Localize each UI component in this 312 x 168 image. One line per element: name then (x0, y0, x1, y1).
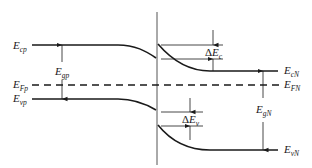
valence-band-p (32, 99, 156, 110)
label-e-gp: Egp (54, 65, 69, 80)
label-e-cp: Ecp (12, 39, 27, 54)
label-delta-ec: ΔEc (205, 46, 223, 61)
valence-band-n (158, 125, 278, 150)
label-e-vp: Evp (12, 92, 27, 107)
label-e-fn: EFN (283, 78, 301, 93)
label-delta-ev: ΔEv (182, 113, 200, 128)
band-diagram: Ecp Egp EFp Evp ΔEc ΔEv EcN EFN EgN EvN (0, 0, 312, 168)
label-e-gn: EgN (255, 103, 272, 118)
label-e-vn: EvN (283, 143, 300, 158)
conduction-band-p (32, 45, 156, 58)
label-e-cn: EcN (283, 64, 300, 79)
label-e-fp: EFp (12, 78, 28, 93)
